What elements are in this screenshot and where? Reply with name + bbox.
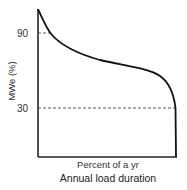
chart-title: Annual load duration [60, 172, 156, 184]
load-duration-chart: 90 30 MWe (%) Percent of a yr Annual loa… [0, 0, 187, 190]
y-axis-label: MWe (%) [6, 61, 17, 100]
x-axis-label: Percent of a yr [77, 159, 139, 170]
y-tick-30: 30 [17, 103, 29, 114]
y-tick-90: 90 [17, 28, 29, 39]
load-duration-curve [38, 9, 176, 157]
